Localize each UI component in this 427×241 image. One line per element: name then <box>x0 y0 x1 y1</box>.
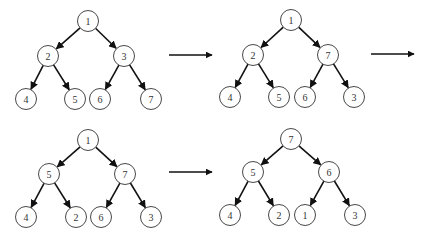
trees: 1234567127456315742637564213 <box>16 10 366 228</box>
node-label: 4 <box>24 94 29 105</box>
tree-node: 3 <box>114 46 135 67</box>
tree-edge <box>106 183 120 207</box>
node-label: 5 <box>73 94 78 105</box>
node-label: 5 <box>251 167 256 178</box>
tree-edge <box>299 27 320 47</box>
tree-node: 2 <box>66 207 87 228</box>
step-arrows <box>169 54 414 172</box>
node-label: 2 <box>46 51 51 62</box>
tree-edge <box>31 183 44 207</box>
tree-edge <box>261 27 283 47</box>
node-label: 1 <box>303 210 308 221</box>
tree-node: 2 <box>243 45 264 66</box>
node-label: 1 <box>289 15 294 26</box>
tree-node: 3 <box>344 87 365 108</box>
node-label: 7 <box>123 169 128 180</box>
tree-node: 1 <box>78 130 99 151</box>
node-label: 1 <box>86 135 91 146</box>
tree-edge <box>130 65 146 90</box>
tree-edge <box>259 64 274 88</box>
tree-node: 1 <box>78 11 99 32</box>
tree-step-2: 1274563 <box>220 10 365 108</box>
tree-node: 4 <box>16 89 37 110</box>
node-label: 3 <box>149 212 154 223</box>
tree-edge <box>130 183 145 208</box>
tree-node: 4 <box>220 87 241 108</box>
node-label: 7 <box>326 50 331 61</box>
tree-edge <box>54 65 70 90</box>
tree-node: 3 <box>141 207 162 228</box>
tree-node: 5 <box>39 164 60 185</box>
tree-edge <box>299 146 321 165</box>
node-label: 2 <box>251 50 256 61</box>
tree-step-1: 1234567 <box>16 11 162 110</box>
node-label: 4 <box>228 210 233 221</box>
tree-edge <box>258 181 273 206</box>
tree-node: 1 <box>281 10 302 31</box>
node-label: 4 <box>228 92 233 103</box>
tree-node: 7 <box>281 129 302 150</box>
tree-edge <box>96 28 117 48</box>
node-label: 2 <box>277 210 282 221</box>
tree-step-4: 7564213 <box>220 129 366 226</box>
tree-edge <box>261 146 283 165</box>
node-label: 7 <box>149 94 154 105</box>
tree-edge <box>310 64 323 87</box>
heap-diagram: 1234567127456315742637564213 <box>0 0 427 241</box>
tree-edge <box>56 28 80 49</box>
tree-edge <box>96 147 117 167</box>
node-label: 5 <box>277 92 282 103</box>
tree-edge <box>235 64 248 87</box>
tree-edge <box>334 181 349 206</box>
tree-node: 5 <box>269 87 290 108</box>
tree-edge <box>57 147 80 167</box>
node-label: 6 <box>303 92 308 103</box>
tree-node: 2 <box>269 205 290 226</box>
tree-node: 1 <box>295 205 316 226</box>
tree-node: 7 <box>115 164 136 185</box>
tree-node: 4 <box>220 205 241 226</box>
node-label: 5 <box>47 169 52 180</box>
node-label: 6 <box>99 212 104 223</box>
tree-edge <box>334 64 349 88</box>
tree-edge <box>55 183 71 208</box>
node-label: 2 <box>74 212 79 223</box>
tree-edge <box>235 181 248 205</box>
tree-node: 4 <box>16 207 37 228</box>
node-label: 3 <box>122 51 127 62</box>
node-label: 7 <box>289 134 294 145</box>
tree-node: 7 <box>141 89 162 110</box>
node-label: 1 <box>86 16 91 27</box>
node-label: 3 <box>353 210 358 221</box>
tree-node: 2 <box>38 46 59 67</box>
tree-step-3: 1574263 <box>16 130 162 228</box>
tree-node: 6 <box>295 87 316 108</box>
tree-edge <box>31 65 43 89</box>
node-label: 6 <box>98 94 103 105</box>
tree-node: 3 <box>345 205 366 226</box>
tree-node: 6 <box>90 89 111 110</box>
node-label: 6 <box>327 167 332 178</box>
tree-node: 5 <box>243 162 264 183</box>
tree-node: 5 <box>65 89 86 110</box>
tree-node: 7 <box>318 45 339 66</box>
tree-edge <box>105 65 119 89</box>
node-label: 3 <box>352 92 357 103</box>
tree-edge <box>310 181 324 205</box>
tree-node: 6 <box>319 162 340 183</box>
tree-node: 6 <box>91 207 112 228</box>
node-label: 4 <box>24 212 29 223</box>
